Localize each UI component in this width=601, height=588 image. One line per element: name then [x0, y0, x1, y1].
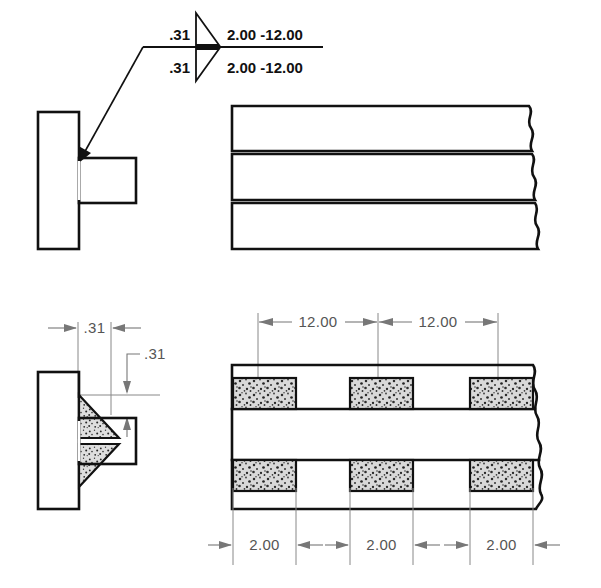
weld-leg-size-arrow-side: .31 [169, 59, 190, 76]
dim-label-length-2: 2.00 [366, 536, 396, 553]
weld-segment-top-2 [350, 378, 413, 409]
drawing-canvas [0, 0, 601, 588]
weld-segment-bottom-2 [350, 460, 413, 491]
weld-segment-top-3 [470, 378, 533, 409]
dim-label-length-1: 2.00 [249, 536, 279, 553]
dim-label-length-3: 2.00 [486, 536, 516, 553]
dim-label-pitch-1: 12.00 [298, 313, 337, 330]
weld-segment-bottom-3 [470, 460, 533, 491]
dim-label-weld-leg-vertical: .31 [144, 345, 166, 362]
weld-segment-bottom-1 [233, 460, 296, 491]
technical-drawing: .31 .31 2.00 -12.00 2.00 -12.00 .31 [0, 0, 601, 588]
weld-length-pitch-other-side: 2.00 -12.00 [227, 26, 303, 43]
weld-leg-size-other-side: .31 [169, 26, 190, 43]
weld-segment-top-1 [233, 378, 296, 409]
weld-length-pitch-arrow-side: 2.00 -12.00 [227, 59, 303, 76]
dim-label-pitch-2: 12.00 [418, 313, 457, 330]
dim-label-weld-leg-horizontal: .31 [84, 319, 106, 336]
